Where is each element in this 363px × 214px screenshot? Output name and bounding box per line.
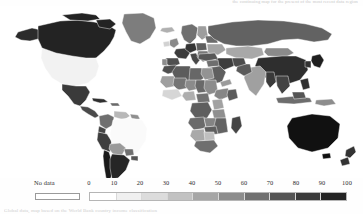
legend-bar-row: [0, 192, 363, 201]
legend-tick-20: 20: [137, 179, 144, 186]
legend-ramp-divider: [141, 193, 142, 200]
country-hispaniola: [110, 103, 120, 106]
world-map-svg: [0, 6, 363, 178]
country-paraguay: [124, 149, 134, 156]
legend-ramp-segment: [218, 193, 244, 200]
legend-color-ramp: [89, 192, 347, 201]
legend-ramp-segment: [269, 193, 295, 200]
legend-nodata-label: No data: [34, 179, 55, 186]
country-poland: [196, 43, 207, 51]
country-portugal: [162, 59, 167, 66]
legend-tick-40: 40: [189, 179, 196, 186]
legend-tick-80: 80: [293, 179, 300, 186]
legend-ramp-divider: [116, 193, 117, 200]
legend-ramp-segment: [295, 193, 321, 200]
legend-tick-70: 70: [267, 179, 274, 186]
map-legend: No data 0 10 20 30 40 50 60 70 80 90 100: [0, 178, 363, 208]
legend-ramp-divider: [269, 193, 270, 200]
legend-tick-90: 90: [319, 179, 326, 186]
legend-ramp-segment: [141, 193, 167, 200]
caption-bottom: Global data, map based on the World Bank…: [4, 207, 360, 214]
legend-tick-30: 30: [163, 179, 170, 186]
legend-tick-10: 10: [111, 179, 118, 186]
legend-tick-50: 50: [215, 179, 222, 186]
legend-ramp-divider: [244, 193, 245, 200]
figure-container: the continuing map for the present of th…: [0, 0, 363, 214]
legend-ramp-segment: [116, 193, 142, 200]
country-kenya-uganda: [212, 99, 224, 110]
caption-top: the continuing map for the present of th…: [18, 0, 358, 5]
legend-ramp-divider: [295, 193, 296, 200]
legend-tick-100: 100: [342, 179, 352, 186]
country-botswana: [204, 132, 215, 141]
country-iraq-syria: [206, 60, 219, 67]
legend-ramp-divider: [167, 193, 168, 200]
country-uruguay: [131, 156, 138, 161]
country-borneo: [292, 92, 306, 99]
legend-ramp-divider: [192, 193, 193, 200]
country-korea: [305, 61, 311, 68]
legend-tick-0: 0: [87, 179, 90, 186]
legend-ramp-segment: [192, 193, 218, 200]
country-tanzania: [212, 109, 226, 119]
legend-ramp-divider: [320, 193, 321, 200]
legend-nodata-swatch: [35, 193, 80, 200]
country-cameroon-car: [196, 93, 210, 103]
legend-ramp-segment: [244, 193, 270, 200]
country-tasmania: [322, 153, 331, 159]
legend-ramp-segment: [90, 193, 116, 200]
world-map: [0, 6, 363, 178]
legend-ramp-segment: [167, 193, 193, 200]
country-ireland: [163, 41, 170, 47]
legend-ramp-segment: [320, 193, 346, 200]
legend-tick-60: 60: [241, 179, 248, 186]
legend-tick-labels: No data 0 10 20 30 40 50 60 70 80 90 100: [0, 178, 363, 191]
legend-ramp-divider: [218, 193, 219, 200]
